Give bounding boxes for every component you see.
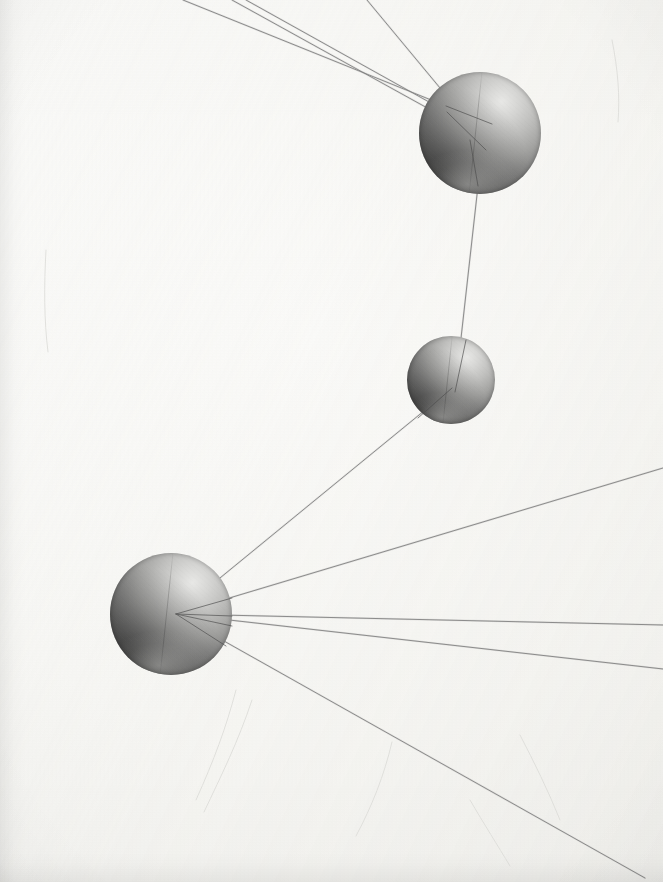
middle-hub-stub-a	[455, 340, 466, 392]
middle-hub-stub-b	[418, 388, 452, 418]
screenshot-root	[0, 0, 663, 882]
top-hub-stub-b	[447, 112, 486, 150]
bottom-hub-stub-a	[176, 598, 232, 614]
photograph	[0, 0, 663, 882]
top-hub-stub-c	[470, 140, 478, 186]
bottom-hub-stub-d	[176, 614, 226, 646]
top-hub-stub-a	[446, 106, 492, 124]
wire-overlay-layer	[0, 0, 663, 882]
